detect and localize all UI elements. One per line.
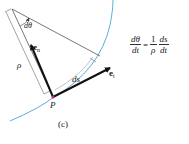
eq-coef-den: ρ [150,45,156,55]
eq-lhs-num: dθ [130,34,141,45]
radius-line-2 [12,9,100,56]
ds-label: ds [72,75,80,84]
figure-caption: (c) [58,120,68,129]
curvature-equation: dθ dt = 1 ρ ds dt [129,34,170,55]
trajectory-curve [10,0,113,121]
point-p [51,95,54,98]
frac-dtheta-dt: dθ dt [130,34,141,55]
rho-tick-bottom [44,91,50,94]
eq-equals: = [143,40,148,50]
point-p-label: P [50,101,56,110]
eq-lhs-den: dt [131,45,140,55]
e-t-label: et [109,69,115,79]
eq-rhs-num: ds [159,34,169,45]
e-n-label: en [33,43,40,53]
eq-coef-num: 1 [150,34,157,45]
rho-label: ρ [17,61,21,70]
frac-1-rho: 1 ρ [150,34,157,55]
rho-tick-top [5,9,11,12]
e-t-sub: t [113,73,115,79]
frac-ds-dt: ds dt [159,34,169,55]
e-n-sub: n [37,47,40,53]
eq-rhs-den: dt [159,45,168,55]
e-t-arrow [53,68,110,97]
dtheta-label: dθ [24,22,32,30]
